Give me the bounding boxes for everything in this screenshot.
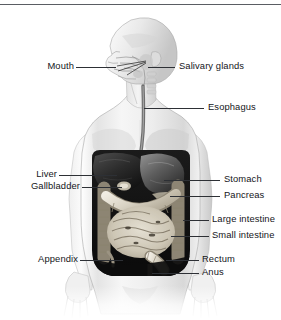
leader-line-esophagus — [144, 108, 204, 109]
digestive-system-diagram: Mouth Salivary glands Esophagus Liver Ga… — [0, 0, 281, 320]
leader-line-anus — [152, 273, 199, 274]
leader-line-liver — [59, 175, 117, 176]
label-mouth: Mouth — [0, 61, 74, 70]
label-pancreas: Pancreas — [224, 190, 264, 199]
label-small-intestine: Small intestine — [212, 230, 274, 239]
label-gallbladder: Gallbladder — [0, 181, 80, 190]
label-rectum: Rectum — [202, 254, 235, 263]
leader-line-large-intestine — [183, 220, 209, 221]
leader-line-gallbladder — [82, 187, 122, 188]
leader-line-stomach — [164, 180, 220, 181]
anatomy-illustration — [0, 0, 281, 320]
label-stomach: Stomach — [224, 174, 262, 183]
label-liver: Liver — [0, 169, 57, 178]
leader-line-small-intestine — [171, 236, 209, 237]
abdominal-organs — [92, 150, 190, 276]
label-esophagus: Esophagus — [208, 102, 256, 111]
label-appendix: Appendix — [0, 254, 78, 263]
label-anus: Anus — [202, 267, 224, 276]
leader-line-salivary-glands — [148, 67, 175, 68]
label-salivary-glands: Salivary glands — [179, 61, 244, 70]
leader-line-rectum — [166, 260, 199, 261]
leader-line-mouth — [76, 67, 116, 68]
leader-line-appendix — [80, 260, 123, 261]
leader-line-pancreas — [170, 196, 220, 197]
label-large-intestine: Large intestine — [212, 214, 275, 223]
